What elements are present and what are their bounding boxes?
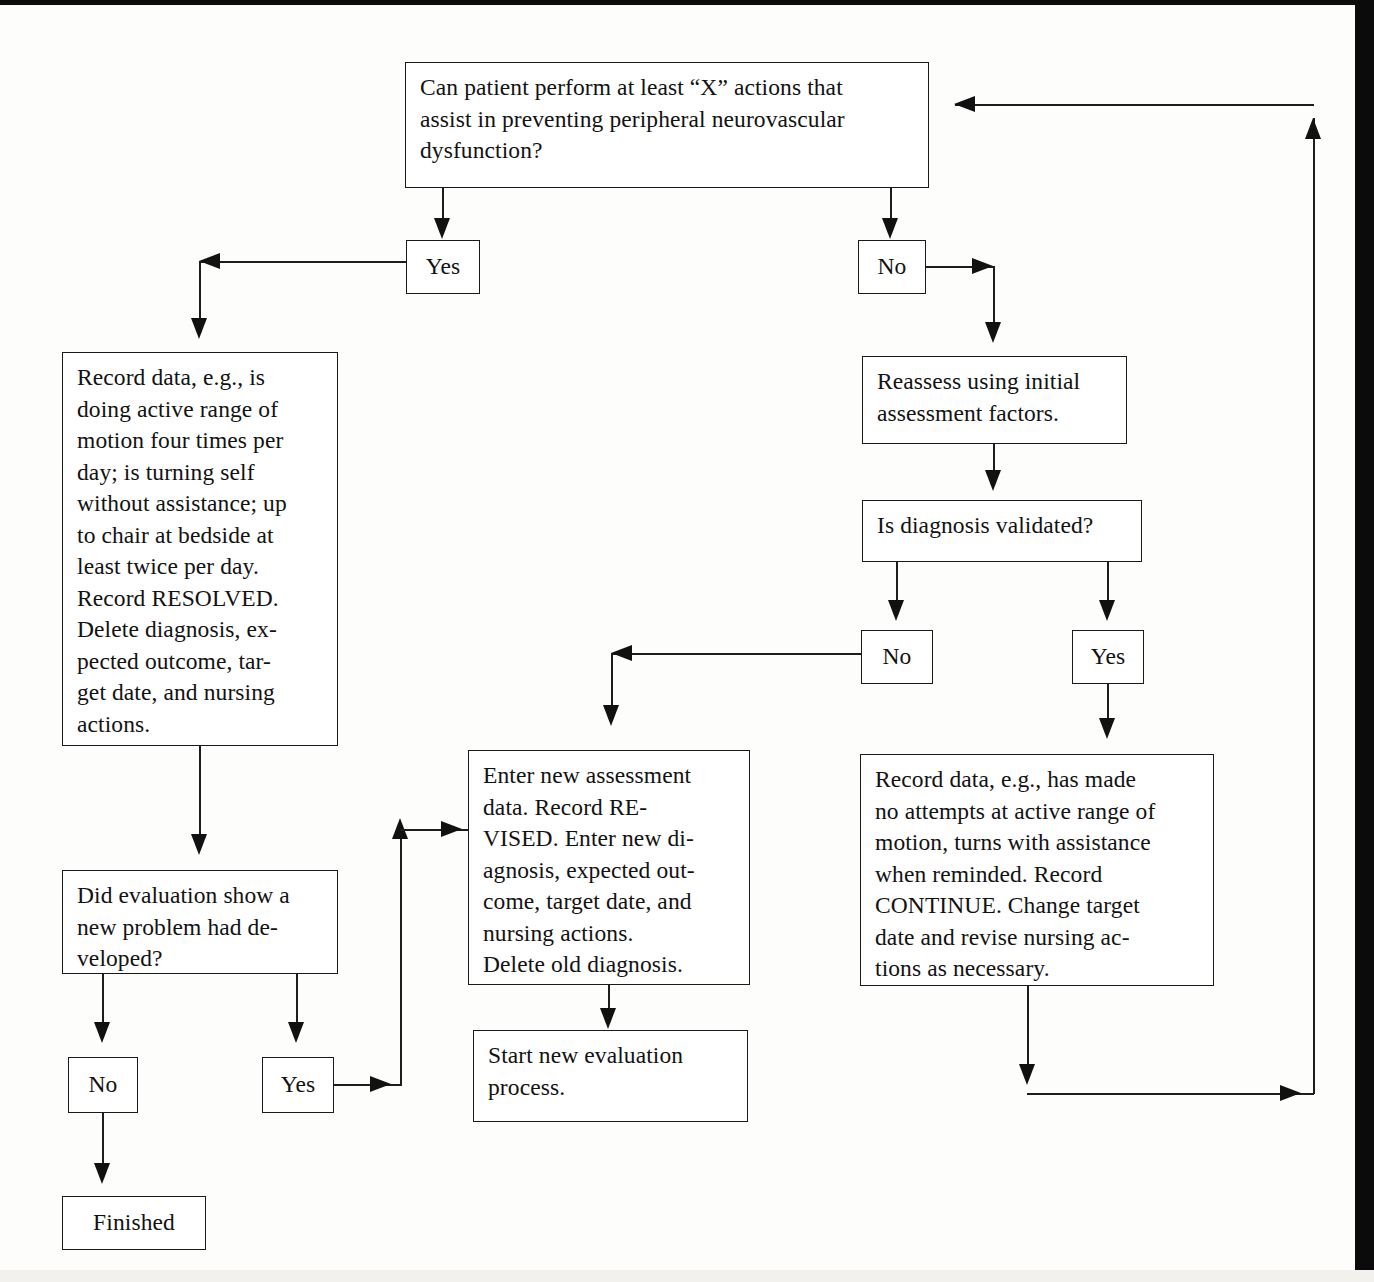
node-record-continue: Record data, e.g., has made no attempts …: [860, 754, 1214, 986]
node-is-validated: Is diagnosis validated?: [862, 500, 1142, 562]
edge-continue-arrow-into-question: [954, 96, 975, 112]
node-no-top: No: [858, 240, 926, 294]
edge-enter-to-start-arrow: [600, 1008, 616, 1029]
edge-yes-to-record-vertical: [199, 261, 201, 323]
node-no-bottom-label: No: [89, 1069, 118, 1101]
edge-yesbottom-arrow-right: [370, 1076, 391, 1092]
node-enter-new-label: Enter new assessment data. Record RE- VI…: [483, 760, 737, 981]
node-question-top: Can patient perform at least “X” actions…: [405, 62, 929, 188]
node-reassess-label: Reassess using initial assessment factor…: [877, 366, 1114, 429]
edge-continue-arrow-up: [1305, 118, 1321, 139]
edge-nomid-to-enter-horizontal: [612, 653, 861, 655]
edge-no-to-reassess-arrow-down: [985, 322, 1001, 343]
node-finished: Finished: [62, 1196, 206, 1250]
node-yes-mid: Yes: [1072, 630, 1144, 684]
edge-nomid-to-enter-vertical: [611, 653, 613, 711]
edge-did-to-no-arrow: [94, 1022, 110, 1043]
edge-no-to-finished-arrow: [94, 1163, 110, 1184]
node-yes-top-label: Yes: [426, 251, 461, 283]
edge-yes-to-record-horizontal: [200, 261, 406, 263]
scan-edge-right: [1355, 0, 1374, 1282]
node-no-top-label: No: [878, 251, 907, 283]
edge-continue-arrow-right: [1280, 1085, 1301, 1101]
edge-continue-top-horizontal: [955, 104, 1314, 106]
edge-did-to-yes-arrow: [288, 1022, 304, 1043]
node-no-mid: No: [861, 630, 933, 684]
edge-validated-to-yes-arrow: [1099, 600, 1115, 621]
edge-did-to-no-line: [102, 974, 104, 1026]
node-yes-top: Yes: [406, 240, 480, 294]
node-record-resolved: Record data, e.g., is doing active range…: [62, 352, 338, 746]
node-start-new: Start new evaluation process.: [473, 1030, 748, 1122]
edge-question-to-no-arrow: [882, 218, 898, 239]
scan-edge-top: [0, 0, 1374, 5]
node-no-mid-label: No: [883, 641, 912, 673]
edge-did-to-yes-line: [296, 974, 298, 1026]
node-yes-bottom: Yes: [262, 1057, 334, 1113]
edge-yesbottom-arrow-into-enter: [441, 821, 462, 837]
node-no-bottom: No: [68, 1057, 138, 1113]
node-did-evaluation: Did evaluation show a new problem had de…: [62, 870, 338, 974]
edge-continue-down-vertical: [1027, 986, 1029, 1072]
edge-continue-right-margin-vertical: [1313, 118, 1315, 1094]
flowchart-page: Can patient perform at least “X” actions…: [0, 0, 1374, 1282]
edge-no-to-reassess-arrow-right: [972, 258, 993, 274]
edge-question-to-no-line: [890, 188, 892, 220]
node-record-resolved-label: Record data, e.g., is doing active range…: [77, 362, 325, 740]
node-start-new-label: Start new evaluation process.: [488, 1040, 735, 1103]
edge-yesbottom-vertical: [400, 838, 402, 1085]
edge-question-to-yes-line: [442, 188, 444, 220]
edge-resolved-to-did-arrow: [191, 834, 207, 855]
edge-no-to-reassess-vertical: [993, 266, 995, 328]
edge-yes-to-record-arrow-left: [199, 253, 220, 269]
node-finished-label: Finished: [93, 1207, 175, 1239]
edge-no-to-finished-line: [102, 1113, 104, 1167]
node-question-top-label: Can patient perform at least “X” actions…: [420, 72, 916, 167]
node-yes-mid-label: Yes: [1091, 641, 1126, 673]
node-reassess: Reassess using initial assessment factor…: [862, 356, 1127, 444]
edge-question-to-yes-arrow: [434, 218, 450, 239]
edge-reassess-to-validated-arrow: [985, 470, 1001, 491]
edge-continue-arrow-down: [1019, 1064, 1035, 1085]
edge-resolved-to-did-line: [199, 746, 201, 844]
scan-edge-bottom: [0, 1270, 1374, 1282]
node-yes-bottom-label: Yes: [281, 1069, 316, 1101]
node-enter-new: Enter new assessment data. Record RE- VI…: [468, 750, 750, 985]
edge-yesbottom-right-segment: [334, 1084, 402, 1086]
node-did-evaluation-label: Did evaluation show a new problem had de…: [77, 880, 325, 975]
edge-nomid-to-enter-arrow-down: [603, 705, 619, 726]
edge-continue-bottom-horizontal: [1027, 1093, 1314, 1095]
edge-validated-to-no-arrow: [888, 600, 904, 621]
node-is-validated-label: Is diagnosis validated?: [877, 510, 1129, 542]
edge-yesmid-to-continue-arrow: [1099, 718, 1115, 739]
edge-nomid-to-enter-arrow-left: [611, 645, 632, 661]
edge-yes-to-record-arrow-down: [191, 318, 207, 339]
node-record-continue-label: Record data, e.g., has made no attempts …: [875, 764, 1201, 985]
